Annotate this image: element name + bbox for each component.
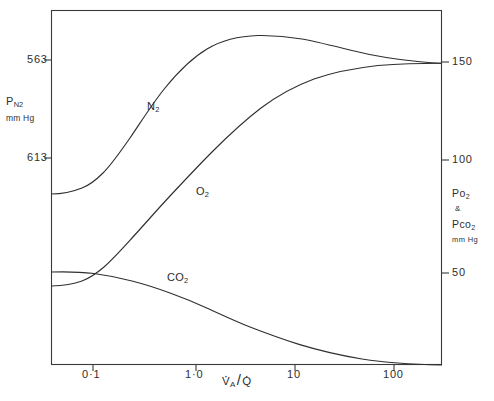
chart-figure: 563 613 PN2 mm Hg 150 100 50 Po2 & Pco2 … [0,0,494,401]
curve-label-co2: CO2 [167,272,188,283]
plot-canvas [0,0,494,401]
curve-label-o2-main: O [196,185,205,197]
x-axis-tick-label-0-1: 0·1 [82,369,100,380]
left-axis-title-text: PN2 [6,96,34,107]
right-axis-title-po2-sub: 2 [466,193,470,201]
right-axis-tick-label-150: 150 [452,56,473,67]
left-axis-ticks [44,60,52,158]
left-axis-title: PN2 mm Hg [6,96,34,123]
right-axis-title-pco2-main: Pco [452,218,471,230]
right-axis-title-pco2: Pco2 [452,219,478,230]
right-axis-title: Po2 & Pco2 mm Hg [452,188,478,244]
right-axis-title-po2: Po2 [452,188,478,199]
left-axis-title-2: 2 [19,100,23,109]
curve-label-o2-sub: 2 [205,190,209,199]
x-axis-tick-label-1-0: 1·0 [185,369,203,380]
curve-label-co2-sub: 2 [184,276,188,285]
x-axis-tick-label-100: 100 [383,369,404,380]
curve-label-o2: O2 [196,186,209,197]
right-axis-tick-label-100: 100 [452,154,473,165]
curve-label-n2-main: N [147,100,155,112]
left-axis-tick-label-613: 613 [27,152,48,163]
left-axis-title-p: P [6,95,14,107]
x-axis-tick-label-10: 10 [287,369,301,380]
right-axis-title-pco2-sub: 2 [471,224,475,232]
plot-frame [52,11,442,365]
x-axis-title-v: V [222,376,230,388]
x-axis-title: VA/Q [222,372,251,388]
curve-label-co2-main: CO [167,271,184,283]
right-axis-units: mm Hg [452,236,478,244]
x-axis-title-q: Q [242,376,251,388]
right-axis-tick-label-50: 50 [452,267,466,278]
right-axis-title-ampersand: & [455,205,478,213]
left-axis-units: mm Hg [6,114,34,123]
curve-label-n2: N2 [147,101,159,112]
x-axis-title-a: A [230,380,236,389]
left-axis-tick-label-563: 563 [27,54,48,65]
right-axis-title-po2-main: Po [452,187,466,199]
right-axis-ticks [442,62,450,273]
curve-label-n2-sub: 2 [155,105,159,114]
